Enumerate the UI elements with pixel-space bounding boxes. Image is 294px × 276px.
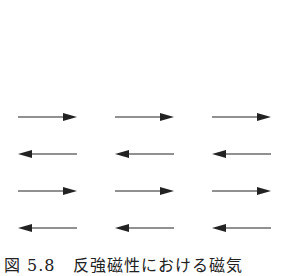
arrow-right-icon [18,187,77,195]
arrow-right-icon [115,113,174,121]
arrow-right-icon [212,187,271,195]
arrow-left-icon [115,224,174,232]
arrow-left-icon [212,224,271,232]
figure-caption: 図 5.8 反強磁性における磁気 [4,252,243,276]
arrow-right-icon [115,187,174,195]
arrow-left-icon [115,150,174,158]
arrow-right-icon [18,113,77,121]
arrow-right-icon [212,113,271,121]
arrow-left-icon [18,224,77,232]
arrow-left-icon [212,150,271,158]
arrow-left-icon [18,150,77,158]
